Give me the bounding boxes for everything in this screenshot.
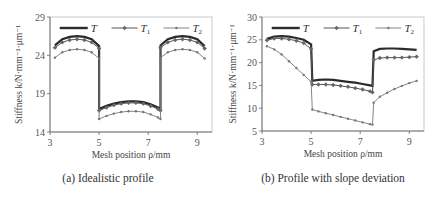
data-point xyxy=(68,49,70,51)
data-point xyxy=(76,48,78,50)
figure-caption: (b) Profile with slope deviation xyxy=(261,172,405,185)
data-point xyxy=(105,115,107,117)
legend-item-T2: T2 xyxy=(163,22,202,36)
data-point xyxy=(159,118,161,120)
x-tick-label: 7 xyxy=(146,137,151,148)
data-point xyxy=(407,55,411,59)
data-point xyxy=(371,123,373,125)
data-point xyxy=(203,57,205,59)
x-tick-label: 5 xyxy=(97,137,102,148)
data-point xyxy=(325,112,327,114)
data-point xyxy=(189,49,191,51)
data-point xyxy=(54,56,56,58)
plot-frame xyxy=(262,17,424,131)
x-tick-label: 7 xyxy=(358,136,363,147)
y-tick-label: 14 xyxy=(35,127,45,138)
legend-label: T xyxy=(303,22,310,34)
data-point xyxy=(324,82,328,86)
data-point xyxy=(332,114,334,116)
y-tick-label: 19 xyxy=(35,88,45,99)
data-point xyxy=(317,110,319,112)
series-T xyxy=(55,36,205,109)
data-point xyxy=(311,108,313,110)
data-point xyxy=(378,56,382,60)
data-point xyxy=(393,88,395,90)
legend-label: T1 xyxy=(141,22,151,36)
data-point xyxy=(361,121,363,123)
chart-panel-b: 357951015202530Mesh position ρ/mmStiffne… xyxy=(228,12,424,186)
data-point xyxy=(369,123,371,125)
data-point xyxy=(159,56,161,58)
x-tick-label: 5 xyxy=(309,136,314,147)
data-point xyxy=(142,111,144,113)
data-point xyxy=(196,51,198,53)
data-point xyxy=(386,91,388,93)
data-point xyxy=(385,55,389,59)
y-tick-label: 29 xyxy=(35,12,45,23)
data-point xyxy=(331,83,335,87)
data-point xyxy=(360,87,364,91)
data-point xyxy=(339,116,341,118)
y-tick-label: 30 xyxy=(247,12,257,23)
data-point xyxy=(98,57,100,59)
data-point xyxy=(414,54,418,58)
data-point xyxy=(157,116,159,118)
legend-item-T: T xyxy=(60,22,98,34)
x-tick-label: 9 xyxy=(195,137,200,148)
y-tick-label: 24 xyxy=(35,50,45,61)
data-point xyxy=(316,82,320,86)
data-point xyxy=(280,53,282,55)
figure-caption: (a) Idealistic profile xyxy=(62,172,153,185)
plot-frame xyxy=(50,17,212,132)
data-point xyxy=(408,82,410,84)
data-point xyxy=(400,55,404,59)
y-axis-label: Stiffness k/N·mm⁻¹·μm⁻¹ xyxy=(228,24,238,123)
data-point xyxy=(167,51,169,53)
data-point xyxy=(401,85,403,87)
y-tick-label: 20 xyxy=(247,57,257,68)
legend-label: T2 xyxy=(404,22,414,36)
legend-item-T2: T2 xyxy=(375,22,414,36)
data-point xyxy=(83,49,85,51)
data-point xyxy=(113,112,115,114)
y-tick-label: 25 xyxy=(247,34,257,45)
data-point xyxy=(353,86,357,90)
series-T2 xyxy=(54,48,206,120)
x-tick-label: 3 xyxy=(48,137,53,148)
x-tick-label: 3 xyxy=(260,136,265,147)
data-point xyxy=(180,37,184,41)
data-point xyxy=(98,118,100,120)
series-T1 xyxy=(265,36,419,94)
data-point xyxy=(75,37,79,41)
legend-item-T1: T1 xyxy=(324,22,363,36)
data-point xyxy=(135,110,137,112)
data-point xyxy=(181,48,183,50)
y-tick-label: 5 xyxy=(252,126,257,137)
legend-label: T2 xyxy=(192,22,202,36)
data-point xyxy=(266,45,268,47)
data-point xyxy=(174,49,176,51)
figure: 357914192429Mesh position ρ/mmStiffness … xyxy=(0,0,440,200)
data-point xyxy=(346,85,350,89)
legend-label: T xyxy=(91,22,98,34)
data-point xyxy=(273,48,275,50)
data-point xyxy=(149,113,151,115)
data-point xyxy=(338,84,342,88)
y-tick-label: 15 xyxy=(247,80,257,91)
data-point xyxy=(371,58,375,62)
data-point xyxy=(372,102,374,104)
chart-panel-a: 357914192429Mesh position ρ/mmStiffness … xyxy=(14,12,212,186)
data-point xyxy=(295,67,297,69)
data-point xyxy=(91,51,93,53)
legend: TT1T2 xyxy=(60,22,203,36)
data-point xyxy=(354,119,356,121)
data-point xyxy=(392,55,396,59)
data-point xyxy=(127,110,129,112)
x-axis-label: Mesh position ρ/mm xyxy=(304,149,383,159)
y-tick-label: 10 xyxy=(247,103,257,114)
y-axis-label: Stiffness k/N·mm⁻¹·μm⁻¹ xyxy=(14,25,24,124)
legend: TT1T2 xyxy=(272,22,415,36)
data-point xyxy=(310,81,312,83)
legend-item-T: T xyxy=(272,22,310,34)
legend-item-T1: T1 xyxy=(112,22,151,36)
